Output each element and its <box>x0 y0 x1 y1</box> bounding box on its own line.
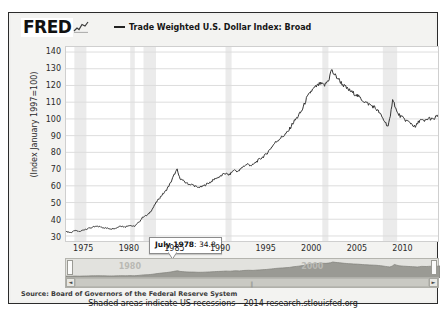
fred-logo: FRED <box>21 18 73 37</box>
recession-band <box>226 47 232 241</box>
line-chart-plot[interactable] <box>65 46 439 242</box>
x-axis-tick: 1990 <box>210 244 230 253</box>
recession-bands <box>74 47 397 241</box>
y-axis-tick: 50 <box>31 199 61 208</box>
range-navigator[interactable]: 1980 2000 <box>65 258 439 277</box>
source-text: Source: Board of Governors of the Federa… <box>21 290 237 298</box>
y-axis-tick: 60 <box>31 182 61 191</box>
squiggle-chart-icon <box>73 21 89 33</box>
legend-series-label: Trade Weighted U.S. Dollar Index: Broad <box>129 23 311 32</box>
x-axis-tick: 1975 <box>73 244 93 253</box>
y-axis-tick: 110 <box>31 97 61 106</box>
y-axis-tick: 130 <box>31 63 61 72</box>
x-axis-tick: 2000 <box>301 244 321 253</box>
x-axis-tick: 1995 <box>255 244 275 253</box>
footnote-text: Shaded areas indicate US recessions - 20… <box>11 299 435 308</box>
x-axis-tick: 1980 <box>119 244 139 253</box>
fred-chart-inner: FRED Trade Weighted U.S. Dollar Index: B… <box>11 15 435 301</box>
scroll-left-arrow-icon[interactable]: ◄ <box>66 278 75 287</box>
y-axis-tick: 70 <box>31 165 61 174</box>
y-axis-tick: 90 <box>31 131 61 140</box>
navigator-left-handle[interactable] <box>67 260 73 275</box>
recession-band <box>130 47 135 241</box>
y-axis-tick: 80 <box>31 148 61 157</box>
navigator-year-1980: 1980 <box>119 262 141 271</box>
navigator-right-handle[interactable] <box>431 260 437 275</box>
recession-band <box>74 47 86 241</box>
y-axis-tick: 120 <box>31 80 61 89</box>
fred-chart-card: FRED Trade Weighted U.S. Dollar Index: B… <box>8 12 438 304</box>
horizontal-scrollbar[interactable]: ◄ ‖ ► <box>65 277 439 288</box>
chart-header: FRED Trade Weighted U.S. Dollar Index: B… <box>11 15 435 41</box>
scrollbar-grip-icon: ‖ <box>250 280 254 287</box>
recession-band <box>383 47 397 241</box>
legend-line-swatch <box>114 26 125 28</box>
scroll-right-arrow-icon[interactable]: ► <box>429 278 438 287</box>
y-axis-tick-labels: 14013012011010090807060504030 <box>31 46 61 242</box>
recession-band <box>322 47 328 241</box>
series-line <box>66 70 438 233</box>
x-axis-tick: 2005 <box>347 244 367 253</box>
scrollbar-thumb[interactable]: ‖ <box>75 278 429 287</box>
chart-legend: Trade Weighted U.S. Dollar Index: Broad <box>114 20 311 34</box>
y-axis-tick: 100 <box>31 114 61 123</box>
gridlines <box>66 52 438 236</box>
y-axis-tick: 140 <box>31 47 61 56</box>
x-axis-tick: 2010 <box>392 244 412 253</box>
x-axis-tick: 1985 <box>164 244 184 253</box>
x-axis-tick-labels: 19751980198519901995200020052010 <box>65 244 439 256</box>
y-axis-tick: 40 <box>31 216 61 225</box>
plot-area-wrapper[interactable]: July 1978: 34.8 <box>65 46 439 242</box>
y-axis-tick: 30 <box>31 232 61 241</box>
navigator-year-2000: 2000 <box>301 262 323 271</box>
